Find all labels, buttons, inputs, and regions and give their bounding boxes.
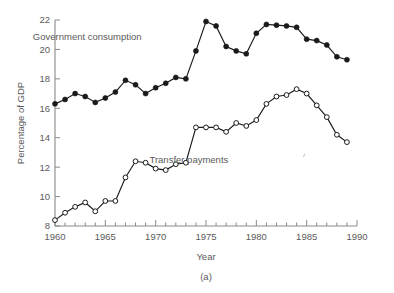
data-point — [264, 22, 269, 27]
data-point — [264, 101, 269, 106]
data-point — [334, 54, 339, 59]
data-point — [153, 85, 158, 90]
data-point — [214, 125, 219, 130]
data-point — [314, 38, 319, 43]
x-tick-label: 1975 — [195, 231, 216, 242]
data-point — [123, 78, 128, 83]
figure-caption: (a) — [200, 271, 212, 282]
data-point — [314, 103, 319, 108]
data-point — [194, 125, 199, 130]
data-point — [53, 101, 58, 106]
y-axis: 810121416182022 — [39, 14, 60, 231]
y-axis-title: Percentage of GDP — [15, 82, 26, 164]
data-point — [53, 218, 58, 223]
data-point — [133, 159, 138, 164]
data-point — [345, 140, 350, 145]
line-chart: 8101214161820221960196519701975198019851… — [0, 0, 394, 293]
y-tick-label: 16 — [39, 103, 50, 114]
data-point — [103, 95, 108, 100]
data-point — [284, 23, 289, 28]
y-tick-label: 20 — [39, 44, 50, 55]
data-point — [103, 199, 108, 204]
figure-container: 8101214161820221960196519701975198019851… — [0, 0, 394, 293]
y-tick-label: 12 — [39, 162, 50, 173]
data-point — [73, 204, 78, 209]
data-point — [83, 200, 88, 205]
data-point — [224, 129, 229, 134]
series-annotation-2: Transfer payments — [149, 154, 228, 165]
data-point — [63, 210, 68, 215]
data-point — [163, 168, 168, 173]
scan-artifact — [303, 153, 305, 157]
data-point — [234, 121, 239, 126]
data-point — [173, 75, 178, 80]
data-point — [304, 37, 309, 42]
data-point — [193, 48, 198, 53]
data-point — [204, 19, 209, 24]
data-point — [294, 25, 299, 30]
data-point — [73, 91, 78, 96]
data-point — [274, 94, 279, 99]
data-point — [274, 23, 279, 28]
data-point — [244, 124, 249, 129]
data-point — [63, 97, 68, 102]
x-axis: 1960196519701975198019851990 — [44, 220, 367, 242]
data-point — [214, 23, 219, 28]
data-point — [324, 115, 329, 120]
data-point — [334, 132, 339, 137]
data-point — [113, 90, 118, 95]
data-point — [143, 160, 148, 165]
data-point — [254, 31, 259, 36]
data-point — [254, 118, 259, 123]
data-point — [234, 48, 239, 53]
data-point — [93, 100, 98, 105]
x-tick-label: 1980 — [246, 231, 267, 242]
data-point — [143, 91, 148, 96]
x-tick-label: 1965 — [95, 231, 116, 242]
y-tick-label: 8 — [45, 220, 50, 231]
data-point — [224, 44, 229, 49]
data-point — [83, 94, 88, 99]
data-point — [133, 82, 138, 87]
data-point — [163, 81, 168, 86]
y-tick-label: 10 — [39, 191, 50, 202]
data-point — [244, 51, 249, 56]
data-point — [284, 93, 289, 98]
data-point — [204, 125, 209, 130]
data-point — [93, 209, 98, 214]
data-point — [324, 43, 329, 48]
y-tick-label: 22 — [39, 14, 50, 25]
series-annotation-1: Government consumption — [33, 31, 142, 42]
data-point — [344, 57, 349, 62]
data-point — [183, 76, 188, 81]
data-point — [153, 166, 158, 171]
data-point — [304, 91, 309, 96]
x-axis-title: Year — [196, 251, 215, 262]
axis-spines — [55, 20, 357, 226]
x-tick-label: 1960 — [44, 231, 65, 242]
data-point — [294, 87, 299, 92]
x-tick-label: 1990 — [346, 231, 367, 242]
y-tick-label: 18 — [39, 73, 50, 84]
y-tick-label: 14 — [39, 132, 50, 143]
x-tick-label: 1985 — [296, 231, 317, 242]
data-point — [123, 175, 128, 180]
data-point — [113, 199, 118, 204]
x-tick-label: 1970 — [145, 231, 166, 242]
